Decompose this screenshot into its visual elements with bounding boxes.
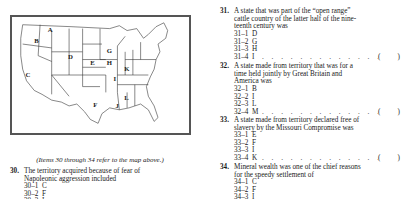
question-stem: The territory acquired because of fear o… xyxy=(24,168,140,183)
option-list: 33–1E 33–2F 33–3I 33–4K. . . . . . . . .… xyxy=(234,132,400,162)
option[interactable]: 33–3I xyxy=(234,147,400,155)
option-list: 31–1D 31–2G 31–3H 31–4I. . . . . . . . .… xyxy=(234,31,400,61)
us-map-outline: A B C D E F G H I J K L xyxy=(12,17,189,133)
answer-blank[interactable]: () xyxy=(378,54,400,62)
svg-text:C: C xyxy=(26,71,31,78)
svg-text:F: F xyxy=(93,101,97,108)
option[interactable]: 33–2F xyxy=(234,140,400,148)
option[interactable]: 30–2F xyxy=(24,191,190,199)
option[interactable]: 31–1D xyxy=(234,31,400,39)
us-map: A B C D E F G H I J K L xyxy=(10,15,191,135)
question-number: 30. xyxy=(10,168,19,176)
question-number: 31. xyxy=(220,8,229,16)
option[interactable]: 32–3L xyxy=(234,101,400,109)
option[interactable]: 33–4K. . . . . . . . . . . . . . . . . .… xyxy=(234,155,400,163)
map-caption: (Items 30 through 34 refer to the map ab… xyxy=(0,156,200,164)
svg-text:K: K xyxy=(124,65,130,72)
question-stem: A state made from territory declared fre… xyxy=(234,117,359,132)
question-stem: A state made from territory that was for… xyxy=(234,63,353,86)
option[interactable]: 31–2G xyxy=(234,39,400,47)
answer-blank[interactable]: () xyxy=(378,155,400,163)
svg-text:I: I xyxy=(114,75,117,82)
option[interactable]: 32–1B xyxy=(234,86,400,94)
svg-text:G: G xyxy=(107,47,113,54)
question-stem: A state that was part of the “open range… xyxy=(234,8,356,31)
map-state-letters: A B C D E F G H I J K L xyxy=(26,26,131,109)
svg-text:D: D xyxy=(68,53,73,60)
question-number: 33. xyxy=(220,117,229,125)
option[interactable]: 34–1C xyxy=(234,179,400,187)
question-number: 32. xyxy=(220,63,229,71)
question-stem: Mineral wealth was one of the chief reas… xyxy=(234,164,361,179)
option[interactable]: 33–1E xyxy=(234,132,400,140)
option-list: 34–1C 34–2F 34–3I xyxy=(234,179,400,199)
option[interactable]: 30–3I xyxy=(24,198,190,199)
option[interactable]: 34–2F xyxy=(234,187,400,195)
svg-text:H: H xyxy=(107,59,113,66)
answer-blank[interactable]: () xyxy=(378,109,400,117)
option[interactable]: 32–2I xyxy=(234,94,400,102)
option-list: 32–1B 32–2I 32–3L 32–4M. . . . . . . . .… xyxy=(234,86,400,116)
option[interactable]: 31–4I. . . . . . . . . . . . . . . . . .… xyxy=(234,54,400,62)
option-list: 30–1C 30–2F 30–3I xyxy=(24,183,190,199)
svg-text:A: A xyxy=(48,26,53,33)
option[interactable]: 34–3I xyxy=(234,194,400,199)
svg-text:B: B xyxy=(34,37,39,44)
svg-text:E: E xyxy=(90,59,95,66)
option[interactable]: 31–3H xyxy=(234,46,400,54)
svg-text:L: L xyxy=(124,94,129,101)
option[interactable]: 30–1C xyxy=(24,183,190,191)
question-number: 34. xyxy=(220,164,229,172)
